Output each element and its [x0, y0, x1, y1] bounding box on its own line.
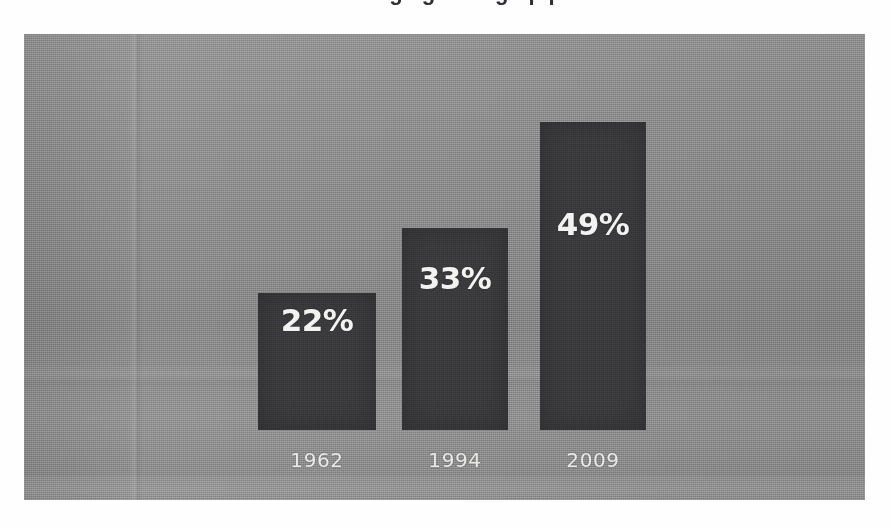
bar-value-1994: 33% [402, 260, 508, 296]
chart-panel: 22% 1962 33% 1994 49% 2009 [24, 34, 865, 500]
bar-value-1962: 22% [258, 302, 376, 338]
bar-group-2009[interactable]: 49% 2009 [540, 34, 646, 500]
chart-headline: Percentage growing up poor [0, 0, 893, 6]
headline-clipped-region: Percentage growing up poor [0, 0, 893, 13]
bar-value-2009: 49% [540, 206, 646, 242]
bar-rect-1994[interactable] [402, 228, 508, 430]
bar-label-1962: 1962 [258, 448, 376, 472]
bar-group-1962[interactable]: 22% 1962 [258, 34, 376, 500]
figure-root: Percentage growing up poor 22% 1962 33% … [0, 0, 893, 527]
bar-rect-2009[interactable] [540, 122, 646, 430]
plot-area: 22% 1962 33% 1994 49% 2009 [24, 34, 865, 500]
bar-group-1994[interactable]: 33% 1994 [402, 34, 508, 500]
bar-label-1994: 1994 [402, 448, 508, 472]
bar-label-2009: 2009 [540, 448, 646, 472]
